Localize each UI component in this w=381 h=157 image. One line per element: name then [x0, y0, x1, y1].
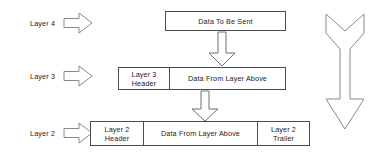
- long-down-arrow-icon: [323, 13, 367, 131]
- pdu-cell-payload: Data From Layer Above: [143, 122, 257, 145]
- layer-label-layer-2: Layer 2: [30, 130, 55, 137]
- right-block-arrow-icon: [63, 122, 93, 144]
- layer-3-pdu-box: Layer 3 Header Data From Layer Above: [118, 67, 286, 90]
- diagram-canvas: Layer 4 Layer 3 Layer 2 Data To Be Sent …: [0, 0, 381, 157]
- right-block-arrow-icon: [63, 65, 93, 87]
- down-block-arrow-icon: [207, 31, 237, 67]
- pdu-cell-payload: Data From Layer Above: [169, 68, 285, 89]
- pdu-cell-payload: Data To Be Sent: [166, 12, 285, 30]
- pdu-cell-header: Layer 3 Header: [119, 68, 169, 89]
- layer-label-layer-4: Layer 4: [30, 20, 55, 27]
- down-block-arrow-icon: [190, 90, 220, 122]
- layer-label-layer-3: Layer 3: [30, 73, 55, 80]
- layer-4-pdu-box: Data To Be Sent: [165, 11, 286, 31]
- right-block-arrow-icon: [63, 12, 93, 34]
- pdu-cell-trailer: Layer 2 Trailer: [257, 122, 309, 145]
- layer-2-pdu-box: Layer 2 Header Data From Layer Above Lay…: [90, 121, 310, 146]
- pdu-cell-header: Layer 2 Header: [91, 122, 143, 145]
